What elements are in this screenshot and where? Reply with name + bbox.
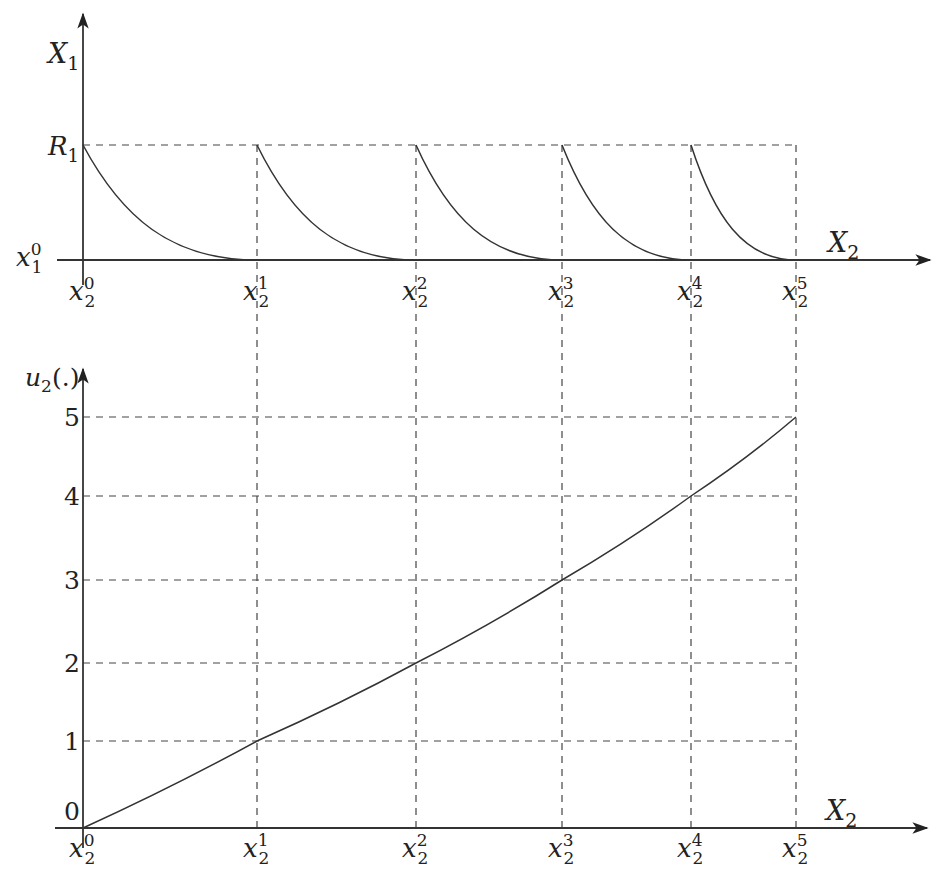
top-x-tick-labels: x02x12x22x32x42x52 xyxy=(69,273,808,311)
top-chart: X1 X2 R1 x01 x02x12x22x32x42x52 xyxy=(16,14,930,828)
indifference-arc-3 xyxy=(416,145,562,260)
y-tick-5: 5 xyxy=(64,403,80,432)
top-x-axis-label: X2 xyxy=(826,227,859,263)
top-x-tick-1: x12 xyxy=(243,273,269,311)
indifference-arc-4 xyxy=(562,145,691,260)
bottom-x-tick-2: x22 xyxy=(402,830,428,868)
bottom-x-tick-labels: x02x12x22x32x42x52 xyxy=(69,830,808,868)
bottom-y-tick-labels: 012345 xyxy=(64,403,80,826)
y-tick-1: 1 xyxy=(64,727,80,756)
top-x-tick-0: x02 xyxy=(69,273,95,311)
bottom-x-tick-3: x32 xyxy=(548,830,574,868)
top-y-axis-label: X1 xyxy=(46,38,79,74)
bottom-x-axis-label: X2 xyxy=(824,795,857,831)
bottom-x-tick-1: x12 xyxy=(243,830,269,868)
top-grid xyxy=(83,145,796,828)
bottom-x-tick-4: x42 xyxy=(677,830,703,868)
bottom-chart: u2(.) X2 012345 x02x12x22x32x42x52 xyxy=(25,363,927,868)
indifference-arc-5 xyxy=(691,145,796,260)
bottom-grid xyxy=(83,417,796,741)
top-x-tick-5: x52 xyxy=(782,273,808,311)
y-tick-3: 3 xyxy=(64,566,80,595)
r1-tick-label: R1 xyxy=(47,131,79,166)
indifference-arc-2 xyxy=(257,145,416,260)
x1-0-tick-label: x01 xyxy=(16,239,42,277)
top-x-tick-4: x42 xyxy=(677,273,703,311)
y-tick-4: 4 xyxy=(64,482,80,511)
bottom-x-tick-0: x02 xyxy=(69,830,95,868)
bottom-x-tick-5: x52 xyxy=(782,830,808,868)
top-curves xyxy=(83,145,796,260)
top-x-tick-2: x22 xyxy=(402,273,428,311)
y-tick-2: 2 xyxy=(64,649,80,678)
bottom-y-axis-label: u2(.) xyxy=(25,363,79,396)
top-x-tick-3: x32 xyxy=(548,273,574,311)
u2-curve xyxy=(83,417,796,828)
indifference-arc-1 xyxy=(83,145,257,260)
y-tick-0: 0 xyxy=(64,797,80,826)
figure: X1 X2 R1 x01 x02x12x22x32x42x52 u2(.) X2… xyxy=(0,0,947,888)
